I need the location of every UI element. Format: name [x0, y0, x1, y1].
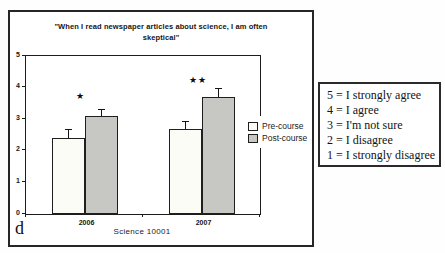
- x-axis-tick: [25, 214, 26, 217]
- post-course-label: Post-course: [262, 133, 307, 143]
- pre-course-swatch: [248, 122, 258, 131]
- y-axis-tick-label: 0: [8, 209, 20, 216]
- error-bar: [101, 109, 102, 116]
- likert-line-1: 1 = I strongly disagree: [327, 148, 439, 163]
- chart-title-line-1: "When I read newspaper articles about sc…: [10, 21, 312, 32]
- y-axis-tick-label: 4: [8, 82, 20, 89]
- y-axis-tick: [22, 55, 25, 56]
- x-category-label-2007: 2007: [184, 219, 224, 226]
- figure-canvas: "When I read newspaper articles about sc…: [0, 0, 445, 253]
- likert-line-2: 2 = I disagree: [327, 133, 439, 148]
- y-axis-tick: [22, 86, 25, 87]
- y-axis-tick: [22, 118, 25, 119]
- y-axis-tick: [22, 149, 25, 150]
- likert-line-5: 5 = I strongly agree: [327, 88, 439, 103]
- chart-frame: "When I read newspaper articles about sc…: [8, 10, 314, 247]
- y-axis-tick-label: 1: [8, 177, 20, 184]
- chart-title-line-2: skeptical": [10, 32, 312, 43]
- post-course-bar-2007: [202, 97, 235, 214]
- likert-line-3: 3 = I'm not sure: [327, 118, 439, 133]
- post-course-swatch: [248, 134, 258, 143]
- legend-item-pre-course: Pre-course: [248, 121, 307, 131]
- likert-line-4: 4 = I agree: [327, 103, 439, 118]
- post-course-bar-2006: [85, 116, 118, 214]
- error-bar: [68, 129, 69, 138]
- likert-scale-key: 5 = I strongly agree 4 = I agree 3 = I'm…: [318, 82, 441, 167]
- legend-item-post-course: Post-course: [248, 133, 307, 143]
- error-bar-cap: [98, 109, 105, 110]
- pre-course-bar-2007: [169, 129, 202, 214]
- legend: Pre-course Post-course: [244, 116, 311, 148]
- significance-marker-2007: ★★: [178, 75, 218, 85]
- y-axis-tick-label: 5: [8, 51, 20, 58]
- pre-course-bar-2006: [52, 138, 85, 214]
- error-bar-cap: [215, 88, 222, 89]
- error-bar: [185, 121, 186, 129]
- pre-course-label: Pre-course: [262, 121, 304, 131]
- y-axis-tick-label: 2: [8, 145, 20, 152]
- y-axis-tick: [22, 181, 25, 182]
- error-bar-cap: [182, 121, 189, 122]
- significance-marker-2006: ★: [61, 91, 101, 101]
- error-bar: [218, 88, 219, 97]
- figure-letter: d: [15, 218, 24, 239]
- y-axis-tick-label: 3: [8, 114, 20, 121]
- plot-area: ★★★: [25, 55, 261, 215]
- chart-title: "When I read newspaper articles about sc…: [10, 21, 312, 43]
- x-axis-tick: [142, 214, 143, 217]
- x-axis-title: Science 10001: [25, 227, 259, 236]
- error-bar-cap: [65, 129, 72, 130]
- x-axis-tick: [259, 214, 260, 217]
- x-category-label-2006: 2006: [67, 219, 107, 226]
